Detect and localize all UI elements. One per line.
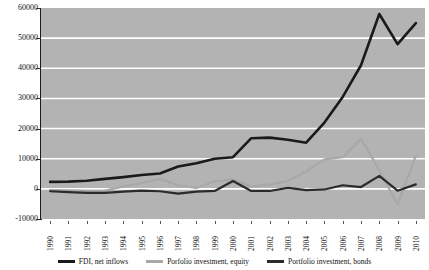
x-tick-mark — [233, 221, 234, 224]
x-tick-mark — [215, 221, 216, 224]
y-tick-label: 10000 — [0, 155, 38, 163]
legend-swatch-icon — [146, 260, 163, 263]
series-line-1 — [50, 139, 416, 205]
x-tick-label: 1993 — [101, 236, 110, 251]
x-tick-label: 2007 — [357, 236, 366, 251]
legend-swatch-icon — [267, 260, 284, 263]
x-tick-label: 1995 — [138, 236, 147, 251]
legend-item[interactable]: Portfolio investment, bonds — [267, 257, 371, 266]
y-axis-labels: -100000100002000030000400005000060000 — [0, 8, 38, 219]
x-tick-label: 1994 — [119, 236, 128, 251]
x-tick-mark — [306, 221, 307, 224]
plot-area — [41, 8, 425, 219]
x-tick-label: 1997 — [174, 236, 183, 251]
x-tick-label: 2000 — [229, 236, 238, 251]
y-tick-label: -10000 — [0, 215, 38, 223]
x-tick-mark — [123, 221, 124, 224]
x-tick-label: 2002 — [266, 236, 275, 251]
data-series-layer — [41, 8, 425, 219]
series-line-0 — [50, 14, 416, 182]
x-tick-mark — [361, 221, 362, 224]
x-tick-mark — [142, 221, 143, 224]
x-tick-mark — [398, 221, 399, 224]
y-tick-label: 20000 — [0, 125, 38, 133]
x-tick-mark — [50, 221, 51, 224]
chart-legend: FDI, net inflowsPorfolio investment, equ… — [0, 254, 429, 268]
y-tick-label: 60000 — [0, 4, 38, 12]
x-tick-label: 1998 — [192, 236, 201, 251]
chart-screenshot: -100000100002000030000400005000060000 19… — [0, 0, 429, 270]
y-tick-label: 40000 — [0, 64, 38, 72]
legend-label: Portfolio investment, bonds — [288, 257, 371, 266]
x-tick-mark — [343, 221, 344, 224]
legend-item[interactable]: FDI, net inflows — [58, 257, 128, 266]
x-tick-mark — [379, 221, 380, 224]
x-tick-label: 2006 — [339, 236, 348, 251]
legend-label: FDI, net inflows — [79, 257, 128, 266]
x-tick-label: 2004 — [302, 236, 311, 251]
x-tick-label: 2003 — [284, 236, 293, 251]
x-tick-label: 2008 — [375, 236, 384, 251]
x-tick-label: 2009 — [394, 236, 403, 251]
y-tick-label: 0 — [0, 185, 38, 193]
x-tick-mark — [251, 221, 252, 224]
x-tick-mark — [105, 221, 106, 224]
x-tick-mark — [324, 221, 325, 224]
x-tick-mark — [416, 221, 417, 224]
x-tick-label: 1990 — [46, 236, 55, 251]
x-tick-mark — [288, 221, 289, 224]
x-tick-label: 1999 — [211, 236, 220, 251]
x-tick-label: 2001 — [247, 236, 256, 251]
legend-label: Porfolio investment, equity — [167, 257, 249, 266]
x-tick-mark — [68, 221, 69, 224]
x-tick-mark — [270, 221, 271, 224]
x-tick-label: 1992 — [83, 236, 92, 251]
x-tick-label: 2010 — [412, 236, 421, 251]
x-tick-mark — [196, 221, 197, 224]
y-tick-label: 30000 — [0, 94, 38, 102]
y-tick-label: 50000 — [0, 34, 38, 42]
x-tick-label: 1991 — [64, 236, 73, 251]
legend-item[interactable]: Porfolio investment, equity — [146, 257, 249, 266]
legend-swatch-icon — [58, 260, 75, 263]
x-tick-label: 1996 — [156, 236, 165, 251]
x-tick-mark — [178, 221, 179, 224]
x-tick-mark — [87, 221, 88, 224]
x-tick-mark — [160, 221, 161, 224]
x-tick-label: 2005 — [320, 236, 329, 251]
x-axis-labels: 1990199119921993199419951996199719981999… — [41, 221, 425, 251]
